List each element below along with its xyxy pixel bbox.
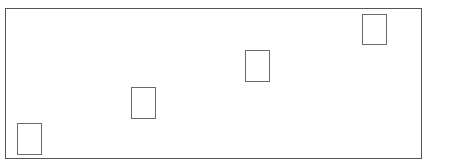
diagram-box-4 xyxy=(362,14,387,45)
diagram-box-3 xyxy=(245,50,270,82)
diagram-box-2 xyxy=(131,87,156,119)
diagram-box-1 xyxy=(17,123,42,155)
diagram-frame xyxy=(5,8,422,159)
